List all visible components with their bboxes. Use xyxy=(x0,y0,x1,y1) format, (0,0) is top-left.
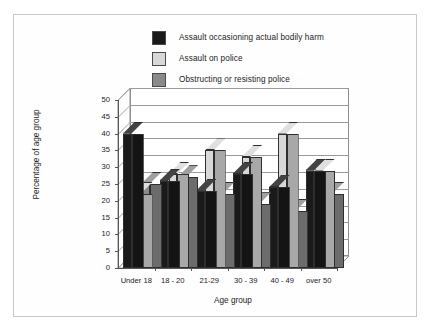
y-tick-mark xyxy=(115,117,118,118)
y-tick-label: 45 xyxy=(88,112,110,121)
x-tick-mark xyxy=(155,268,156,271)
x-tick-mark xyxy=(228,268,229,271)
x-tick-mark xyxy=(264,268,265,271)
bar-side-face xyxy=(241,174,253,268)
y-tick-mark xyxy=(115,100,118,101)
y-tick-label: 40 xyxy=(88,129,110,138)
chart-figure: Assault occasioning actual bodily harm A… xyxy=(0,0,430,331)
grid-line xyxy=(130,105,349,106)
y-tick-label: 5 xyxy=(88,246,110,255)
y-tick-mark xyxy=(115,234,118,235)
bar-1-1 xyxy=(123,122,132,268)
y-tick-mark xyxy=(115,150,118,151)
y-tick-label: 0 xyxy=(88,263,110,272)
y-tick-mark xyxy=(115,134,118,135)
y-tick-mark xyxy=(115,218,118,219)
x-tick-mark xyxy=(191,268,192,271)
y-tick-mark xyxy=(115,251,118,252)
plot-area: Percentage of age group Age group 051015… xyxy=(0,0,430,331)
y-tick-label: 20 xyxy=(88,196,110,205)
x-axis-title: Age group xyxy=(118,296,348,305)
y-tick-label: 50 xyxy=(88,95,110,104)
grid-line xyxy=(130,122,349,123)
y-tick-mark xyxy=(115,268,118,269)
y-tick-label: 25 xyxy=(88,179,110,188)
x-tick-label: over 50 xyxy=(289,276,349,285)
y-tick-label: 35 xyxy=(88,145,110,154)
bar-side-face xyxy=(168,181,180,268)
grid-depth-line xyxy=(118,105,131,118)
y-tick-mark xyxy=(115,184,118,185)
y-tick-label: 30 xyxy=(88,162,110,171)
y-tick-mark xyxy=(115,201,118,202)
grid-line xyxy=(130,155,349,156)
bar-side-face xyxy=(132,134,144,268)
y-tick-label: 10 xyxy=(88,229,110,238)
y-tick-mark xyxy=(115,167,118,168)
grid-line xyxy=(130,88,349,89)
bar-front-face xyxy=(123,134,132,268)
x-tick-mark xyxy=(301,268,302,271)
bar-side-face xyxy=(314,171,326,268)
y-axis-title: Percentage of age group xyxy=(32,75,41,235)
grid-line xyxy=(130,138,349,139)
bar-side-face xyxy=(205,191,217,268)
grid-depth-line xyxy=(118,88,131,101)
y-axis-line xyxy=(118,100,119,269)
bar-side-face xyxy=(278,187,290,268)
y-tick-label: 15 xyxy=(88,213,110,222)
x-tick-mark xyxy=(337,268,338,271)
